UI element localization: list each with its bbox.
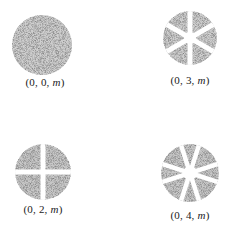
label-mode-0-4: (0, 4, m) (170, 209, 209, 221)
disk-mode-0-0 (12, 15, 72, 75)
label-mode-0-2: (0, 2, m) (23, 203, 62, 215)
label-mode-0-0: (0, 0, m) (25, 76, 64, 88)
disk-mode-0-4 (159, 142, 221, 204)
disk-mode-0-3 (163, 8, 217, 68)
mode-pattern-figure (0, 0, 238, 234)
label-mode-0-3: (0, 3, m) (170, 74, 209, 86)
disk-mode-0-2 (11, 140, 75, 204)
